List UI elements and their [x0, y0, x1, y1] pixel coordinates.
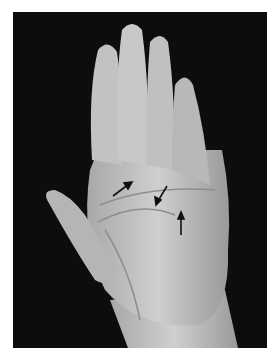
hand-illustration	[13, 12, 267, 348]
middle-finger	[117, 24, 148, 165]
palm-photograph	[13, 12, 267, 348]
